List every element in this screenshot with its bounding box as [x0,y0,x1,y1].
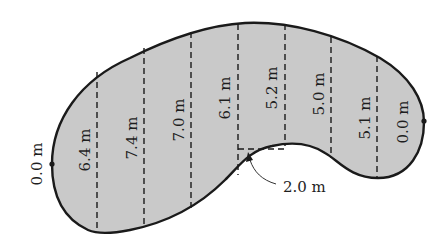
right-end-point [421,118,426,123]
offset-label-1: 6.4 m [76,129,94,172]
offset-label-5: 5.2 m [263,67,281,110]
left-end-label: 0.0 m [28,143,46,186]
callout-arrow-line [250,160,276,184]
spacing-callout-label: 2.0 m [283,178,326,196]
offset-label-3: 7.0 m [170,99,188,142]
left-end-point [49,161,54,166]
offset-label-7: 5.1 m [356,97,374,140]
right-end-label: 0.0 m [394,101,412,144]
offset-label-2: 7.4 m [123,117,141,160]
area-diagram: 0.0 m 6.4 m 7.4 m 7.0 m 6.1 m 5.2 m 5.0 … [0,0,445,241]
offset-label-6: 5.0 m [310,73,328,116]
offset-label-4: 6.1 m [216,77,234,120]
